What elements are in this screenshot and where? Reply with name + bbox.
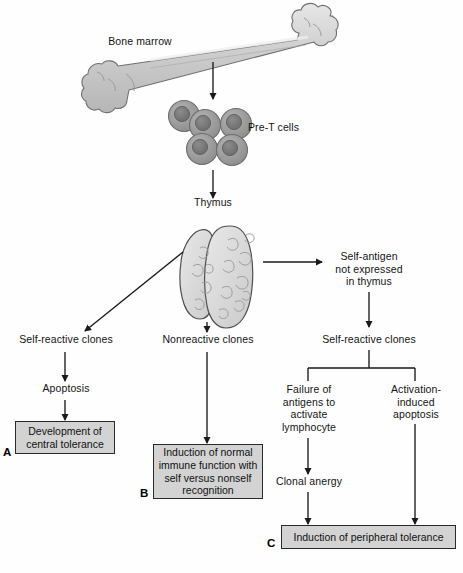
panel-letter-a: A xyxy=(3,446,11,458)
arrow-thymus-to-self-reactive-left xyxy=(85,252,183,331)
label-self-reactive-clones-right: Self-reactive clones xyxy=(313,333,425,346)
label-self-antigen-not-expressed: Self-antigen not expressed in thymus xyxy=(314,250,424,288)
panel-letter-c: C xyxy=(267,537,275,549)
outcome-box-b: Induction of normal immune function with… xyxy=(153,444,263,499)
outcome-box-c: Induction of peripheral tolerance xyxy=(281,525,456,549)
label-bone-marrow: Bone marrow xyxy=(85,35,195,48)
label-apoptosis: Apoptosis xyxy=(20,382,112,395)
label-self-reactive-clones-left: Self-reactive clones xyxy=(10,333,122,346)
label-activation-induced-apoptosis: Activation- induced apoptosis xyxy=(372,383,460,421)
diagram-canvas: Bone marrow Pre-T cells Thymus Self-anti… xyxy=(0,0,463,573)
label-clonal-anergy: Clonal anergy xyxy=(262,475,356,488)
label-pre-t-cells: Pre-T cells xyxy=(248,121,328,134)
label-nonreactive-clones: Nonreactive clones xyxy=(152,333,264,346)
panel-letter-b: B xyxy=(140,487,148,499)
label-failure-of-antigens: Failure of antigens to activate lymphocy… xyxy=(262,383,356,433)
label-thymus: Thymus xyxy=(173,196,253,209)
split-self-reactive-right xyxy=(308,350,415,381)
outcome-box-a: Development of central tolerance xyxy=(15,421,115,454)
